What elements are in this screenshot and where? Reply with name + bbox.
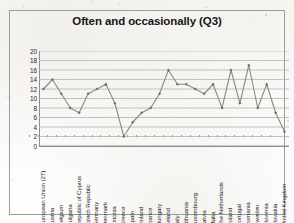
y-axis-tick-10: 10 [30, 95, 37, 102]
x-axis-tick-label: Spain [129, 211, 135, 223]
x-axis-tickmark [208, 135, 209, 137]
y-axis-tick-12: 12 [30, 86, 37, 93]
x-axis-tick-label: Ireland [164, 208, 170, 223]
x-axis-tick-label: Poland [227, 207, 233, 223]
x-axis-tick-label: Italy [173, 215, 179, 223]
y-axis-tick-18: 18 [30, 57, 37, 64]
data-point-23 [247, 64, 250, 67]
x-axis-tickmark [163, 135, 164, 137]
x-axis-tickmark [199, 135, 200, 137]
data-series-line [43, 65, 284, 136]
x-axis-tickmark [47, 135, 48, 137]
data-point-25 [265, 83, 268, 86]
x-axis-tick-label: Greece [120, 206, 126, 223]
x-axis-tick-label: Slovakia [272, 203, 278, 223]
y-axis-tick-16: 16 [30, 67, 37, 74]
y-axis-tick-2: 2 [33, 133, 37, 140]
x-axis-tick-label: Romania [245, 202, 251, 223]
x-axis-tick-label: Austria [48, 207, 54, 223]
x-axis-tick-labels: European Union (27)AustriaBelgiumBulgari… [39, 148, 289, 223]
screenshot-page: Often and occasionally (Q3) 024681012141… [0, 0, 294, 223]
x-axis-tick-label: Luxembourg [191, 193, 197, 223]
x-axis-tickmark [65, 135, 66, 137]
x-axis-tick-label: Portugal [236, 204, 242, 223]
data-point-21 [229, 69, 232, 72]
x-axis-tick-label: Sweden [254, 204, 260, 223]
gridlines [39, 51, 289, 146]
x-axis-tickmark [217, 135, 218, 137]
x-axis-tickmark [190, 135, 191, 137]
x-axis-tickmark [172, 135, 173, 137]
x-axis-tick-label: Belgium [57, 204, 63, 223]
x-axis-tick-label: Latvia [200, 210, 206, 223]
x-axis-tickmark [243, 135, 244, 137]
x-axis-tickmark [252, 135, 253, 137]
x-axis-tickmark [234, 135, 235, 137]
y-axis-tick-4: 4 [33, 124, 37, 131]
y-axis-tick-6: 6 [33, 114, 37, 121]
x-axis-tick-label: Estonia [111, 206, 117, 223]
x-axis-tickmark [154, 135, 155, 137]
x-axis-tickmark [270, 135, 271, 137]
x-axis-tick-label: European Union (27) [39, 170, 45, 223]
y-axis-tick-14: 14 [30, 76, 37, 83]
chart-title: Often and occasionally (Q3) [10, 15, 284, 27]
x-axis-tick-label: Lithuania [182, 202, 188, 223]
y-axis-tick-20: 20 [30, 48, 37, 55]
x-axis-tick-label: United Kingdom [281, 183, 287, 223]
line-chart-svg [39, 51, 289, 146]
x-axis-tick-label: Finland [138, 206, 144, 223]
x-axis-tickmark [181, 135, 182, 137]
y-axis-tick-0: 0 [33, 143, 37, 150]
x-axis-tickmark [92, 135, 93, 137]
data-point-22 [238, 102, 241, 105]
x-axis-tickmark [100, 135, 101, 137]
x-axis-tick-label: Republic of Cyprus [75, 176, 81, 223]
x-axis-tick-label: France [147, 207, 153, 223]
x-axis-tick-label: Germany [93, 201, 99, 223]
plot-area [39, 51, 289, 146]
x-axis-tick-label: Czech Republic [84, 184, 90, 223]
x-axis-tickmark [136, 135, 137, 137]
x-axis-tickmark [74, 135, 75, 137]
x-axis-tick-label: Slovenia [263, 203, 269, 223]
y-axis-tick-8: 8 [33, 105, 37, 112]
chart-container: Often and occasionally (Q3) 024681012141… [9, 10, 285, 215]
x-axis-tickmark [118, 135, 119, 137]
x-axis-tick-label: Denmark [102, 202, 108, 223]
x-axis-tickmark [83, 135, 84, 137]
x-axis-tickmark [29, 135, 30, 137]
data-point-24 [256, 107, 259, 110]
x-axis-tick-label: Bulgaria [66, 204, 72, 223]
data-point-20 [221, 107, 224, 110]
x-axis-tickmark [38, 135, 39, 137]
x-axis-tickmark [145, 135, 146, 137]
x-axis-tickmark [261, 135, 262, 137]
x-axis-tick-label: Hungary [156, 203, 162, 223]
x-axis-tickmark [109, 135, 110, 137]
x-axis-tick-label: The Netherlands [218, 182, 224, 223]
x-axis-tick-label: Malta [209, 211, 215, 223]
x-axis-tickmark [127, 135, 128, 137]
x-axis-tickmark [56, 135, 57, 137]
x-axis-tickmark [225, 135, 226, 137]
